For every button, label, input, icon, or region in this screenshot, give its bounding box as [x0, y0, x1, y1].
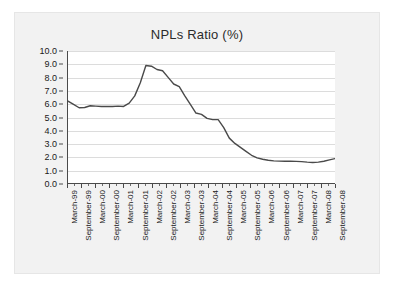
- x-tick-mark: [180, 184, 181, 188]
- x-tick-label: September-03: [197, 190, 206, 241]
- plot-area-wrapper: [67, 51, 335, 184]
- x-minor-tick-mark: [229, 184, 230, 186]
- y-tick-mark: [59, 77, 63, 78]
- x-tick-label: September-08: [338, 190, 347, 241]
- x-axis-labels: March-99September-99March-00September-00…: [67, 190, 335, 270]
- x-tick-mark: [236, 184, 237, 188]
- x-tick-mark: [208, 184, 209, 188]
- y-tick-mark: [59, 144, 63, 145]
- x-tick-mark: [152, 184, 153, 188]
- x-tick-label: March-99: [70, 190, 79, 224]
- x-minor-tick-mark: [173, 184, 174, 186]
- x-tick-label: September-06: [282, 190, 291, 241]
- y-tick-mark: [59, 51, 63, 52]
- x-tick-mark: [222, 184, 223, 188]
- x-tick-label: March-05: [239, 190, 248, 224]
- x-tick-label: March-06: [267, 190, 276, 224]
- y-tick-mark: [59, 117, 63, 118]
- y-tick-label: 6.0: [44, 99, 57, 109]
- x-minor-tick-mark: [102, 184, 103, 186]
- y-tick-label: 9.0: [44, 59, 57, 69]
- x-minor-tick-mark: [215, 184, 216, 186]
- y-tick-mark: [59, 104, 63, 105]
- x-minor-tick-mark: [272, 184, 273, 186]
- y-axis: 0.01.02.03.04.05.06.07.08.09.010.0: [15, 51, 63, 184]
- x-tick-mark: [109, 184, 110, 188]
- x-minor-tick-mark: [314, 184, 315, 186]
- x-minor-tick-mark: [243, 184, 244, 186]
- x-minor-tick-mark: [74, 184, 75, 186]
- x-tick-label: March-01: [126, 190, 135, 224]
- x-minor-tick-mark: [300, 184, 301, 186]
- x-tick-mark: [321, 184, 322, 188]
- x-tick-mark: [81, 184, 82, 188]
- x-tick-label: September-07: [310, 190, 319, 241]
- y-tick-label: 2.0: [44, 152, 57, 162]
- x-tick-mark: [279, 184, 280, 188]
- x-tick-label: September-05: [253, 190, 262, 241]
- x-tick-mark: [307, 184, 308, 188]
- x-tick-label: March-03: [183, 190, 192, 224]
- x-tick-label: September-04: [225, 190, 234, 241]
- y-tick-mark: [59, 90, 63, 91]
- x-tick-mark: [138, 184, 139, 188]
- plot-area: [67, 51, 335, 184]
- x-tick-label: September-02: [169, 190, 178, 241]
- x-tick-label: September-00: [112, 190, 121, 241]
- x-minor-tick-mark: [328, 184, 329, 186]
- x-tick-label: March-04: [211, 190, 220, 224]
- y-tick-label: 8.0: [44, 73, 57, 83]
- x-tick-mark: [95, 184, 96, 188]
- x-tick-mark: [250, 184, 251, 188]
- x-tick-label: September-01: [141, 190, 150, 241]
- y-tick-label: 1.0: [44, 166, 57, 176]
- x-minor-tick-mark: [88, 184, 89, 186]
- chart-title: NPLs Ratio (%): [15, 27, 379, 42]
- y-tick-mark: [59, 170, 63, 171]
- y-tick-label: 4.0: [44, 126, 57, 136]
- y-tick-label: 7.0: [44, 86, 57, 96]
- x-tick-mark: [194, 184, 195, 188]
- x-minor-tick-mark: [130, 184, 131, 186]
- x-minor-tick-mark: [187, 184, 188, 186]
- x-minor-tick-mark: [116, 184, 117, 186]
- y-tick-mark: [59, 64, 63, 65]
- x-tick-mark: [335, 184, 336, 188]
- y-tick-mark: [59, 184, 63, 185]
- y-tick-label: 10.0: [39, 46, 57, 56]
- x-tick-mark: [264, 184, 265, 188]
- line-series: [68, 51, 335, 183]
- y-tick-mark: [59, 130, 63, 131]
- y-tick-mark: [59, 157, 63, 158]
- x-minor-tick-mark: [286, 184, 287, 186]
- x-axis-ticks: [67, 184, 335, 189]
- chart-figure: NPLs Ratio (%) 0.01.02.03.04.05.06.07.08…: [14, 12, 380, 274]
- series-polyline: [68, 66, 335, 163]
- x-tick-label: September-99: [84, 190, 93, 241]
- x-tick-mark: [293, 184, 294, 188]
- x-tick-mark: [166, 184, 167, 188]
- x-tick-mark: [67, 184, 68, 188]
- x-tick-mark: [123, 184, 124, 188]
- x-minor-tick-mark: [257, 184, 258, 186]
- y-tick-label: 3.0: [44, 139, 57, 149]
- x-tick-label: March-08: [324, 190, 333, 224]
- y-tick-label: 0.0: [44, 179, 57, 189]
- x-tick-label: March-00: [98, 190, 107, 224]
- x-tick-label: March-02: [155, 190, 164, 224]
- x-tick-label: March-07: [296, 190, 305, 224]
- y-tick-label: 5.0: [44, 113, 57, 123]
- x-minor-tick-mark: [159, 184, 160, 186]
- x-minor-tick-mark: [201, 184, 202, 186]
- x-minor-tick-mark: [145, 184, 146, 186]
